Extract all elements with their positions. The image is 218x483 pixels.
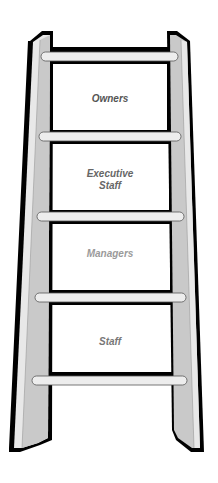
rung-1 [41,52,178,61]
rung-5 [32,376,187,385]
rung-3 [37,212,184,221]
rung-2 [39,132,181,141]
left-rail [9,31,53,452]
level-label-executive-line1: Executive [50,168,170,180]
rung-4 [35,293,186,302]
level-label-executive-staff: Executive Staff [50,168,170,192]
level-label-managers: Managers [50,248,170,260]
level-label-staff: Staff [50,336,170,348]
ladder-graphic [0,0,218,483]
right-rail [167,31,204,452]
level-label-owners: Owners [50,93,170,105]
level-label-executive-line2: Staff [50,180,170,192]
